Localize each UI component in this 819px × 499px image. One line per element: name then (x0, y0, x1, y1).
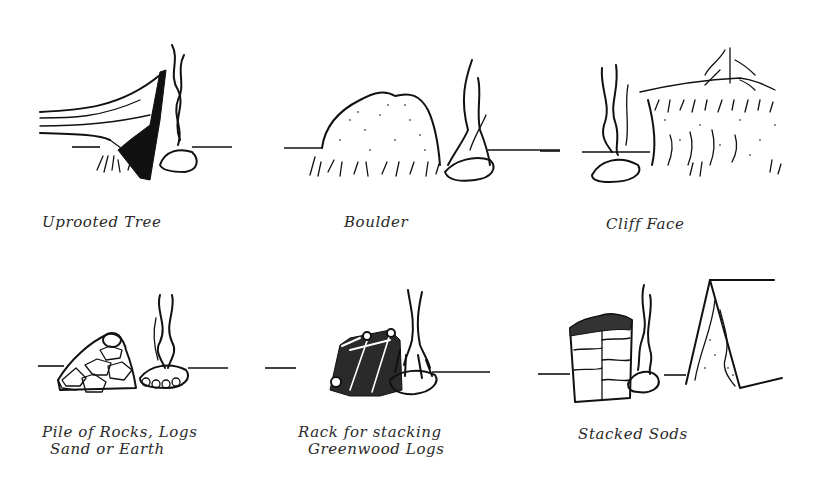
panel-cliff-face: Cliff Face (540, 0, 819, 250)
panel-stacked-sods: Stacked Sods (530, 250, 819, 499)
cliff-face-drawing (540, 0, 819, 250)
caption-boulder: Boulder (344, 214, 408, 231)
caption-uprooted-tree: Uprooted Tree (42, 214, 161, 231)
caption-rack-greenwood-logs: Rack for stacking Greenwood Logs (298, 424, 445, 458)
panel-boulder: Boulder (270, 0, 540, 250)
caption-cliff-face: Cliff Face (606, 216, 685, 233)
stacked-sods-drawing (530, 250, 819, 499)
rack-greenwood-logs-drawing (250, 250, 530, 499)
caption-pile-of-rocks: Pile of Rocks, Logs Sand or Earth (42, 424, 197, 458)
panel-pile-of-rocks: Pile of Rocks, Logs Sand or Earth (0, 250, 250, 499)
pile-of-rocks-drawing (0, 250, 250, 499)
panel-uprooted-tree: Uprooted Tree (0, 0, 270, 250)
caption-stacked-sods: Stacked Sods (578, 426, 688, 443)
panel-rack-greenwood-logs: Rack for stacking Greenwood Logs (250, 250, 530, 499)
